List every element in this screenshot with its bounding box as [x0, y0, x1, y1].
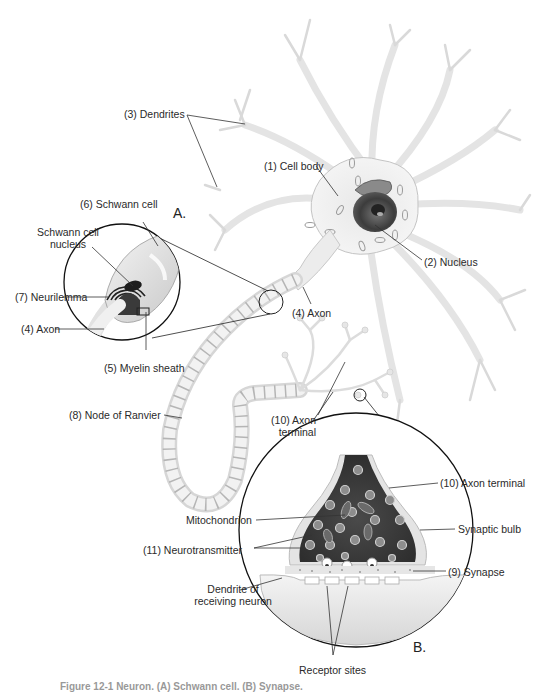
inset-a-label: A. [173, 207, 186, 219]
label-dendrites: (3) Dendrites [124, 108, 185, 120]
label-mitochondrion: Mitochondrion [186, 514, 252, 526]
label-dendrite-receiving: Dendrite of receiving neuron [188, 583, 278, 607]
inset-b-label: B. [413, 641, 426, 653]
label-nucleus: (2) Nucleus [424, 256, 478, 268]
label-axon-terminal-small: (10) Axon terminal [254, 414, 316, 438]
label-synapse: (9) Synapse [448, 566, 505, 578]
label-synaptic-bulb: Synaptic bulb [458, 523, 521, 535]
label-neurotransmitter: (11) Neurotransmitter [143, 544, 242, 556]
label-axon-terminal: (10) Axon terminal [440, 477, 525, 489]
label-receptor-sites: Receptor sites [299, 664, 366, 676]
label-neurilemma: (7) Neurilemma [15, 291, 87, 303]
label-schwann-cell: (6) Schwann cell [80, 198, 158, 210]
label-cell-body: (1) Cell body [264, 160, 324, 172]
label-axon-inset: (4) Axon [21, 323, 60, 335]
label-axon-main: (4) Axon [292, 307, 331, 319]
figure-caption: Figure 12-1 Neuron. (A) Schwann cell. (B… [60, 681, 303, 692]
label-myelin-sheath: (5) Myelin sheath [104, 362, 185, 374]
receiving-dendrite [260, 575, 470, 645]
label-node-of-ranvier: (8) Node of Ranvier [69, 409, 161, 421]
label-schwann-cell-nucleus: Schwann cell nucleus [36, 226, 100, 250]
